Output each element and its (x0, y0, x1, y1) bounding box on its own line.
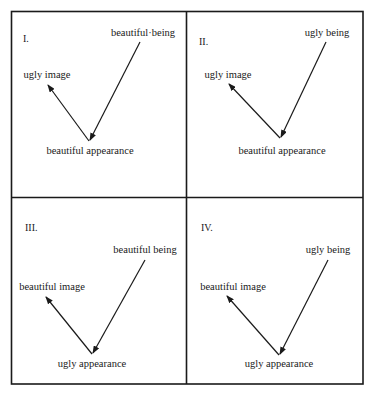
panel-4-appearance-label: ugly appearance (245, 359, 314, 370)
panel-3-image-label: beautiful image (19, 282, 85, 293)
panel-3-appearance-label: ugly appearance (58, 359, 127, 370)
being-to-appearance-arrow (281, 42, 326, 137)
panel-1-arrows (48, 42, 140, 141)
panel-2-arrows (229, 42, 326, 138)
appearance-to-image-arrow (46, 297, 92, 354)
panel-3-numeral: III. (25, 223, 38, 233)
panel-4-image-label: beautiful image (200, 282, 266, 293)
panel-4-being-label: ugly being (306, 245, 351, 256)
panel-1-image-label: ugly image (24, 70, 71, 81)
panel-3-arrows (46, 260, 145, 354)
panel-1-being-label: beautiful·being (111, 28, 175, 39)
panel-4-arrows (227, 260, 328, 355)
appearance-to-image-arrow (227, 296, 279, 355)
panel-1-appearance-label: beautiful appearance (46, 146, 133, 157)
panel-2-being-label: ugly being (305, 28, 350, 39)
being-to-appearance-arrow (90, 42, 140, 140)
panel-1-numeral: I. (23, 34, 29, 44)
panel-2-image-label: ugly image (205, 70, 252, 81)
being-to-appearance-arrow (280, 260, 328, 354)
being-to-appearance-arrow (93, 260, 145, 353)
appearance-to-image-arrow (229, 84, 280, 138)
panel-3-being-label: beautiful being (113, 245, 176, 256)
panel-2-numeral: II. (199, 37, 208, 47)
appearance-to-image-arrow (48, 85, 89, 141)
diagram-frame (0, 0, 374, 399)
panel-4-numeral: IV. (201, 223, 213, 233)
panel-2-appearance-label: beautiful appearance (238, 146, 325, 157)
